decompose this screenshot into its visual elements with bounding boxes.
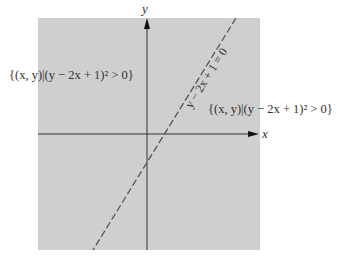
coordinate-plane [0,0,345,259]
region-right-label: {(x, y)|(y − 2x + 1)² > 0} [208,103,333,116]
region-left-label: {(x, y)|(y − 2x + 1)² > 0} [9,69,134,82]
y-axis-label: y [142,2,148,15]
x-axis-label: x [262,127,268,140]
